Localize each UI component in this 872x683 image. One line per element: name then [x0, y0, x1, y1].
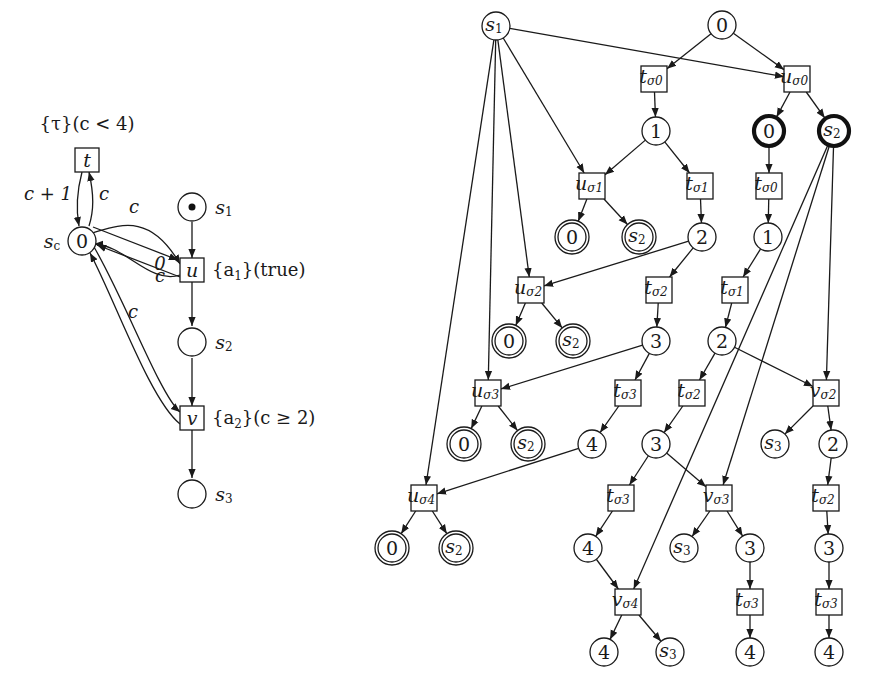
event-u_s0: uσ0 — [780, 65, 810, 92]
edge-u_s4-to-ds2_4 — [432, 511, 447, 534]
condition-n_3c: 3 — [736, 534, 764, 562]
condition-n_4: 4 — [578, 430, 606, 458]
edge-u_s0-to-n_s2b — [806, 92, 824, 118]
edge-u_s3-to-d0_3 — [471, 406, 482, 429]
node-label: 1 — [762, 226, 774, 248]
place-s3: s3 — [178, 480, 233, 508]
condition-d0_3: 0 — [447, 427, 481, 461]
edge-t_s2c-to-n_3d — [827, 511, 828, 534]
condition-n_2c: 2 — [819, 430, 847, 458]
condition-n_1b: 1 — [754, 223, 782, 251]
node-label: 0 — [716, 14, 728, 36]
node-label: 3 — [650, 433, 662, 455]
condition-n_2b: 2 — [708, 327, 736, 355]
edge-n_s1-to-u_s3 — [488, 40, 495, 380]
arc-label-t-to-sc: c — [99, 183, 109, 204]
edge-t_s0-to-n_1 — [655, 92, 656, 117]
left-net-sc-arcs — [90, 225, 180, 424]
edge-u_s3-to-ds2_3 — [498, 406, 517, 431]
event-t_s2c: tσ2 — [811, 484, 839, 511]
event-t_s2b: tσ2 — [677, 379, 705, 406]
condition-n_s3c: s3 — [656, 638, 684, 666]
arc-label-sc-to-v: c — [155, 265, 165, 286]
transition-u: u — [180, 258, 204, 282]
edge-t_s2-to-n_3 — [657, 303, 658, 327]
transition-t: t — [75, 148, 99, 172]
condition-d0_1: 0 — [555, 220, 589, 254]
event-t_s1: tσ1 — [685, 172, 713, 199]
event-t_s3: tσ3 — [613, 379, 641, 406]
edge-u_s2-to-ds2_2 — [542, 303, 562, 328]
condition-n_s3b: s3 — [670, 534, 698, 562]
place-s2: s2 — [178, 328, 233, 356]
edge-u_s2-to-d0_2 — [516, 303, 526, 325]
event-v_s2: vσ2 — [810, 379, 839, 406]
event-u_s1: uσ1 — [575, 172, 605, 199]
edge-t_s3b-to-n_4b — [596, 511, 613, 536]
guard-annotation: {τ}(c < 4) — [40, 113, 135, 134]
edge-n_2c-to-t_s2c — [828, 458, 832, 485]
condition-n_s1: s1 — [482, 12, 510, 40]
node-label: 4 — [744, 641, 756, 663]
edge-n_4b-to-v_s4 — [596, 559, 618, 589]
token-dot — [189, 204, 196, 211]
event-u_s4: uσ4 — [407, 484, 437, 511]
transition-v: v — [180, 406, 204, 430]
edge-n_s2b-to-v_s2 — [826, 147, 833, 380]
event-t_s0: tσ0 — [639, 65, 667, 92]
node-label: v — [187, 407, 198, 429]
edge-n_3b-to-t_s3b — [629, 456, 648, 485]
edge-n_2-to-t_s2 — [670, 248, 694, 277]
edge-u_s4-to-d0_4 — [401, 511, 416, 534]
node-label: 4 — [598, 641, 610, 663]
event-t_s2: tσ2 — [644, 276, 672, 303]
edge-v_s2-to-n_2c — [828, 406, 831, 430]
edge-n_2b-to-t_s2b — [700, 353, 716, 380]
place-s1: s1 — [178, 193, 233, 221]
edge-n_2b-to-v_s2 — [735, 347, 813, 386]
node-label: sc — [44, 230, 61, 253]
node-label: t — [83, 149, 91, 171]
condition-ds2_3: s2 — [511, 427, 545, 461]
arc-label-sc-to-u: c — [129, 196, 139, 217]
condition-n_s3a: s3 — [761, 430, 789, 458]
condition-ds2_1: s2 — [622, 220, 656, 254]
condition-n_0b: 0 — [754, 116, 784, 146]
condition-d0_2: 0 — [492, 324, 526, 358]
condition-n_2: 2 — [688, 223, 716, 251]
condition-n_0: 0 — [708, 11, 736, 39]
node-label: 4 — [586, 433, 598, 455]
edge-n_s1-to-u_s4 — [426, 40, 494, 485]
node-label: 1 — [650, 120, 662, 142]
condition-ds2_4: s2 — [439, 531, 473, 565]
arc-label-v-to-sc: c — [128, 301, 138, 322]
edge-u_s1-to-ds2_1 — [604, 199, 627, 224]
guard-annotation: {a2}(c ≥ 2) — [212, 407, 315, 431]
left-net-annotations: {τ}(c < 4){a1}(true){a2}(c ≥ 2)c + 1cc0c… — [24, 113, 315, 431]
event-u_s3: uσ3 — [471, 379, 501, 406]
edge-v_s3-to-n_s3b — [692, 511, 710, 537]
edge-n_1-to-u_s1 — [605, 140, 645, 175]
node-label: 2 — [696, 226, 708, 248]
event-v_s3: vσ3 — [703, 484, 732, 511]
edge-n_s2b-to-v_s4 — [634, 146, 828, 589]
edge-t_s1b-to-n_2b — [725, 303, 731, 327]
event-u_s2: uσ2 — [514, 276, 544, 303]
edge-n_3b-to-v_s3 — [667, 453, 706, 487]
condition-ds2_2: s2 — [556, 324, 590, 358]
condition-d0_4: 0 — [375, 531, 409, 565]
node-label: 0 — [458, 433, 470, 455]
condition-n_s2b: s2 — [819, 116, 849, 146]
edge-n_1-to-t_s1 — [665, 142, 690, 173]
node-label: s3 — [215, 483, 232, 506]
event-t_s1b: tσ1 — [720, 276, 748, 303]
node-label: 0 — [763, 120, 775, 142]
edge-u_s1-to-d0_1 — [578, 199, 587, 221]
arc-sc-to-v — [94, 247, 180, 412]
edge-v_s4-to-n_4c — [610, 615, 622, 639]
edge-n_s1-to-u_s1 — [503, 38, 584, 173]
condition-n_4c: 4 — [590, 638, 618, 666]
edge-n_1b-to-t_s1b — [743, 249, 761, 277]
edge-v_s4-to-n_s3c — [639, 615, 661, 641]
node-label: 4 — [582, 537, 594, 559]
